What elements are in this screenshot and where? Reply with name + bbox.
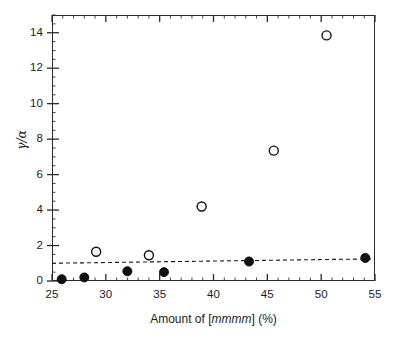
y-axis-title: γ/α: [15, 125, 29, 155]
x-tick-label: 55: [362, 289, 388, 301]
y-tick-label: 0: [19, 275, 43, 287]
y-tick-label: 2: [19, 240, 43, 252]
x-axis-title: Amount of [mmmm] (%): [52, 312, 375, 326]
y-tick-label: 10: [19, 98, 43, 110]
x-tick-label: 25: [39, 289, 65, 301]
x-tick-label: 50: [308, 289, 334, 301]
x-axis-title-italic: mmmm: [212, 312, 252, 326]
x-tick-label: 30: [93, 289, 119, 301]
x-tick-label: 45: [254, 289, 280, 301]
scatter-plot-figure: 02468101214 25303540455055 Amount of [mm…: [0, 0, 401, 339]
plot-area-frame: [52, 15, 375, 281]
x-axis-title-prefix: Amount of [: [150, 312, 211, 326]
y-tick-label: 12: [19, 62, 43, 74]
y-tick-label: 14: [19, 27, 43, 39]
x-tick-label: 40: [201, 289, 227, 301]
y-tick-label: 4: [19, 204, 43, 216]
x-tick-label: 35: [147, 289, 173, 301]
y-tick-label: 6: [19, 169, 43, 181]
x-axis-title-suffix: ] (%): [252, 312, 277, 326]
